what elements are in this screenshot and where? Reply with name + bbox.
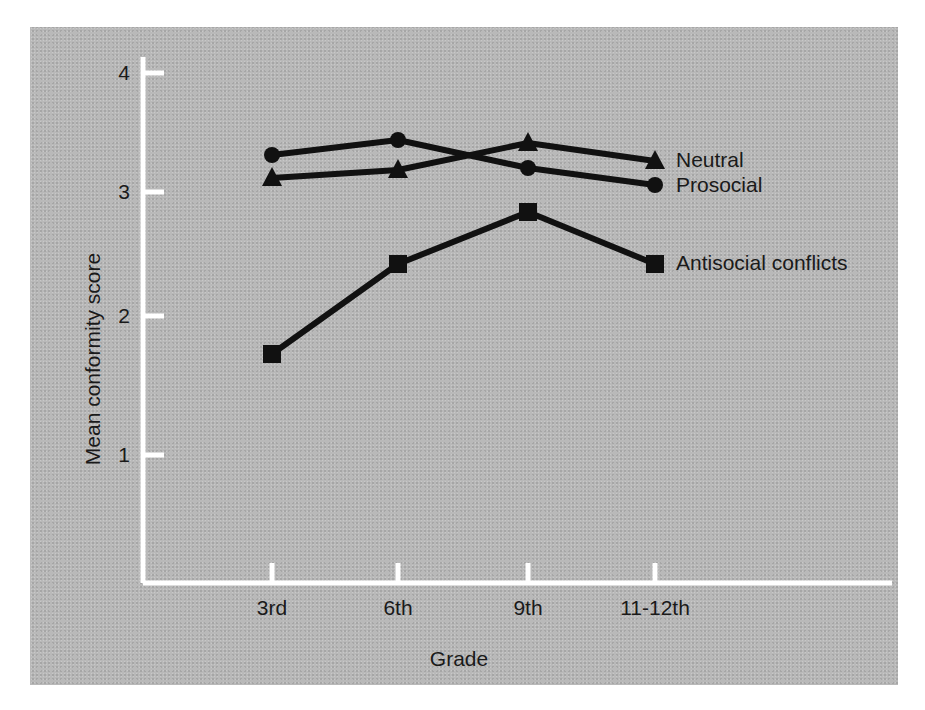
data-point <box>519 203 537 221</box>
y-axis-title: Mean conformity score <box>81 249 105 469</box>
data-point <box>646 255 664 273</box>
data-point <box>647 177 663 193</box>
series-prosocial <box>264 132 663 193</box>
x-axis-title: Grade <box>359 647 559 671</box>
y-tick-label-3: 3 <box>90 181 130 202</box>
y-axis-ticks <box>143 73 164 455</box>
data-point <box>390 132 406 148</box>
data-point <box>263 345 281 363</box>
data-point <box>264 147 280 163</box>
series-prosocial-line <box>272 140 655 185</box>
x-axis-ticks <box>272 563 655 583</box>
y-tick-label-4: 4 <box>90 62 130 83</box>
x-tick-label-11-12th: 11-12th <box>595 597 715 618</box>
series-label-neutral: Neutral <box>676 149 744 170</box>
data-point <box>520 160 536 176</box>
chart-canvas <box>30 27 898 685</box>
series-label-antisocial: Antisocial conflicts <box>676 252 848 273</box>
figure-page: 4 3 2 1 3rd 6th 9th 11-12th Grade Mean c… <box>0 0 925 710</box>
x-tick-label-9th: 9th <box>468 597 588 618</box>
chart-plate: 4 3 2 1 3rd 6th 9th 11-12th Grade Mean c… <box>30 27 898 685</box>
x-tick-label-6th: 6th <box>338 597 458 618</box>
data-point <box>389 255 407 273</box>
series-antisocial <box>263 203 664 363</box>
series-label-prosocial: Prosocial <box>676 174 762 195</box>
x-tick-label-3rd: 3rd <box>212 597 332 618</box>
plot-area: 4 3 2 1 3rd 6th 9th 11-12th Grade Mean c… <box>30 27 898 685</box>
series-antisocial-line <box>272 212 655 354</box>
